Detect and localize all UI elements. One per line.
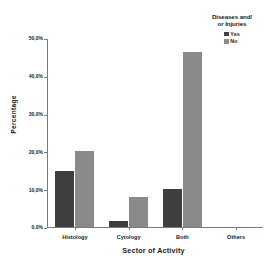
y-axis-tick-mark [44, 228, 47, 229]
bar-pair [55, 151, 94, 227]
bar-no[interactable] [129, 197, 148, 227]
bar-pair [163, 52, 202, 227]
bar-group: Others [209, 39, 263, 227]
bar-yes[interactable] [55, 171, 74, 227]
y-axis-tick-label: 0,0% [32, 224, 43, 230]
x-axis-tick-mark [236, 227, 237, 230]
legend-swatch-yes [224, 32, 229, 37]
y-axis-tick-mark [44, 39, 47, 40]
x-axis-tick-mark [182, 227, 183, 230]
y-axis-tick-mark [44, 152, 47, 153]
bar-chart: Diseases and/ or Injuries Yes No Percent… [0, 0, 275, 264]
legend-title-line-2: or Injuries [193, 20, 271, 27]
y-axis-tick-label: 40,0% [29, 73, 43, 79]
bar-groups: HistologyCytologyBothOthers [48, 39, 263, 227]
y-axis-tick-mark [44, 190, 47, 191]
bar-group: Both [156, 39, 210, 227]
legend-item-yes: Yes [224, 31, 239, 37]
bar-yes[interactable] [163, 189, 182, 227]
y-axis-title-text: Percentage [10, 95, 17, 134]
y-axis-tick-mark [44, 115, 47, 116]
x-axis-tick-mark [75, 227, 76, 230]
x-axis-tick-mark [129, 227, 130, 230]
y-axis-tick-label: 30,0% [29, 111, 43, 117]
bar-yes[interactable] [109, 221, 128, 227]
y-axis-title: Percentage [5, 0, 21, 228]
x-axis-tick-label: Others [197, 234, 275, 240]
y-axis-tick-label: 20,0% [29, 149, 43, 155]
bar-no[interactable] [183, 52, 202, 227]
legend-label-yes: Yes [230, 31, 239, 37]
y-axis-tick-label: 10,0% [29, 187, 43, 193]
legend-title: Diseases and/ or Injuries [193, 13, 271, 28]
x-axis-line [47, 227, 263, 228]
plot-area: 50,0%40,0%30,0%20,0%10,0%0,0% HistologyC… [47, 39, 263, 228]
bar-pair [109, 197, 148, 227]
bar-group: Cytology [102, 39, 156, 227]
bar-group: Histology [48, 39, 102, 227]
legend-title-line-1: Diseases and/ [193, 13, 271, 20]
x-axis-title: Sector of Activity [40, 246, 267, 255]
y-axis-tick-mark [44, 77, 47, 78]
bar-no[interactable] [75, 151, 94, 227]
y-axis-tick-label: 50,0% [29, 35, 43, 41]
